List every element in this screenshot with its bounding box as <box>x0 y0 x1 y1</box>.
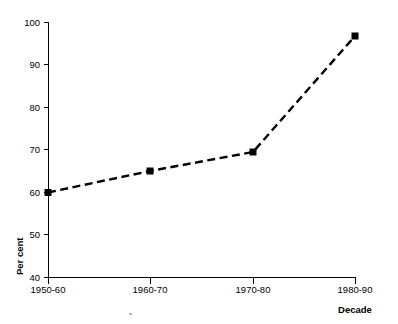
scan-artifact <box>129 313 132 315</box>
data-point-1970-80 <box>250 149 257 156</box>
y-tick-label-80: 80 <box>29 102 40 113</box>
y-tick-label-40: 40 <box>29 272 40 283</box>
chart-figure: 100 90 80 70 60 50 40 1950-60 1960-70 19… <box>0 0 398 324</box>
x-tick-label-1980-90: 1980-90 <box>338 284 373 295</box>
x-tick-label-1970-80: 1970-80 <box>236 284 271 295</box>
line-chart-svg: 100 90 80 70 60 50 40 1950-60 1960-70 19… <box>0 0 398 324</box>
y-tick-label-100: 100 <box>24 17 40 28</box>
data-point-1950-60 <box>45 189 52 196</box>
y-tick-label-60: 60 <box>29 187 40 198</box>
data-point-1980-90 <box>352 33 359 40</box>
y-axis-title: Per cent <box>14 237 25 275</box>
y-tick-label-50: 50 <box>29 229 40 240</box>
data-point-1960-70 <box>147 168 154 175</box>
x-axis-title: Decade <box>338 304 372 315</box>
y-tick-label-70: 70 <box>29 144 40 155</box>
x-tick-label-1950-60: 1950-60 <box>31 284 66 295</box>
x-tick-label-1960-70: 1960-70 <box>133 284 168 295</box>
y-tick-label-90: 90 <box>29 59 40 70</box>
